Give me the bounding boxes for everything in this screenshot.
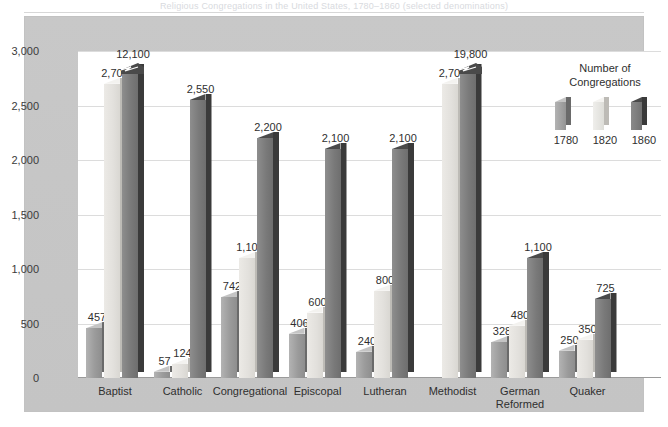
x-axis-label-part: Methodist	[429, 385, 477, 397]
x-axis-label-part: Congregational	[213, 385, 288, 397]
legend-swatch-top	[555, 97, 566, 102]
legend-year-labels: 178018201860	[545, 134, 665, 146]
chart-page: Religious Congregations in the United St…	[0, 0, 668, 427]
x-axis-label-part: German	[500, 385, 540, 397]
x-axis-label-baptist: Baptist	[98, 385, 132, 398]
x-axis-label-congregational: Congregational	[213, 385, 288, 398]
x-axis-label-part: Episcopal	[294, 385, 342, 397]
legend: Number of Congregations 178018201860	[545, 61, 665, 146]
x-axis-label-methodist: Methodist	[429, 385, 477, 398]
plot-area: 05001,0001,5002,0002,5003,000 4572,70012…	[78, 51, 661, 378]
y-tick-label: 1,000	[0, 263, 39, 275]
legend-swatch-face	[593, 102, 604, 130]
caption-divider	[24, 12, 644, 13]
y-tick-label: 3,000	[0, 45, 39, 57]
y-tick-label: 2,000	[0, 154, 39, 166]
x-axis-label-part: Quaker	[569, 385, 605, 397]
legend-swatch-1780	[555, 102, 566, 130]
legend-swatch-side	[566, 97, 571, 125]
x-axis-label-lutheran: Lutheran	[363, 385, 406, 398]
legend-title-line2: Congregations	[545, 75, 665, 89]
legend-swatch-top	[631, 97, 642, 102]
legend-swatch-top	[593, 97, 604, 102]
legend-swatch-side	[604, 97, 609, 125]
legend-swatch-side	[642, 97, 647, 125]
legend-swatches	[545, 96, 665, 130]
legend-swatch-1820	[593, 102, 604, 130]
y-tick-label: 0	[0, 372, 39, 384]
y-tick-label: 1,500	[0, 209, 39, 221]
x-axis-label-german-reformed: GermanReformed	[496, 385, 544, 411]
x-axis-label-catholic: Catholic	[163, 385, 203, 398]
x-axis-label-quaker: Quaker	[569, 385, 605, 398]
legend-label-1820: 1820	[588, 134, 622, 146]
x-axis-label-part: Reformed	[496, 398, 544, 410]
legend-swatch-face	[631, 102, 642, 130]
figure-panel: 05001,0001,5002,0002,5003,000 4572,70012…	[24, 16, 644, 412]
legend-title-line1: Number of	[545, 61, 665, 75]
legend-swatch-face	[555, 102, 566, 130]
x-axis-label-episcopal: Episcopal	[294, 385, 342, 398]
y-tick-label: 500	[0, 318, 39, 330]
legend-label-1860: 1860	[627, 134, 661, 146]
y-tick-label: 2,500	[0, 100, 39, 112]
x-axis-label-part: Lutheran	[363, 385, 406, 397]
x-axis-label-part: Baptist	[98, 385, 132, 397]
legend-swatch-1860	[631, 102, 642, 130]
x-axis-label-part: Catholic	[163, 385, 203, 397]
legend-label-1780: 1780	[549, 134, 583, 146]
